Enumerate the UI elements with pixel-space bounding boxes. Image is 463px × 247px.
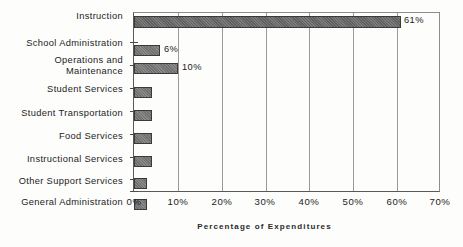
category-label-instruction: Instruction xyxy=(76,11,123,22)
data-label-instruction: 61% xyxy=(404,15,424,25)
data-label-operations-maintenance: 10% xyxy=(182,62,202,72)
axis-tick xyxy=(130,42,138,43)
category-label-student-transportation: Student Transportation xyxy=(21,108,123,119)
category-label-school-administration: School Administration xyxy=(26,38,123,49)
bar-school-administration xyxy=(134,45,160,56)
category-label-food-services: Food Services xyxy=(59,131,123,142)
bar-instruction xyxy=(134,16,401,28)
gridline-20 xyxy=(222,13,223,191)
category-label-instructional-services: Instructional Services xyxy=(27,154,123,165)
xtick-label-20: 20% xyxy=(211,196,232,207)
xtick-label-40: 40% xyxy=(298,196,319,207)
plot-area: 61% 6% 10% xyxy=(133,12,440,192)
xtick-label-0: 0% xyxy=(126,196,141,207)
category-label-operations-maintenance: Operations and Maintenance xyxy=(55,55,123,76)
value-axis-title-text: Percentage of Expenditures xyxy=(197,222,331,231)
bar-student-transportation xyxy=(134,110,152,121)
xtick-label-10: 10% xyxy=(167,196,188,207)
value-axis-title: Percentage of Expenditures xyxy=(0,222,463,231)
xtick-label-70: 70% xyxy=(429,196,450,207)
category-label-other-support-services: Other Support Services xyxy=(19,176,123,187)
xtick-label-60: 60% xyxy=(386,196,407,207)
gridline-10 xyxy=(178,13,179,191)
gridline-50 xyxy=(353,13,354,191)
bar-food-services xyxy=(134,133,152,144)
chart-page: Instruction School Administration Operat… xyxy=(0,0,463,247)
gridline-30 xyxy=(266,13,267,191)
category-axis-labels: Instruction School Administration Operat… xyxy=(0,12,128,192)
bar-instructional-services xyxy=(134,156,152,167)
data-label-school-administration: 6% xyxy=(164,44,178,54)
category-label-student-services: Student Services xyxy=(47,84,123,95)
bar-operations-maintenance xyxy=(134,63,178,74)
xtick-label-50: 50% xyxy=(342,196,363,207)
xtick-label-30: 30% xyxy=(254,196,275,207)
value-axis-labels: 0% 10% 20% 30% 40% 50% 60% 70% xyxy=(0,196,463,212)
axis-tick xyxy=(130,191,138,192)
gridline-40 xyxy=(309,13,310,191)
bar-other-support-services xyxy=(134,178,147,189)
bar-student-services xyxy=(134,87,152,98)
gridline-60 xyxy=(397,13,398,191)
